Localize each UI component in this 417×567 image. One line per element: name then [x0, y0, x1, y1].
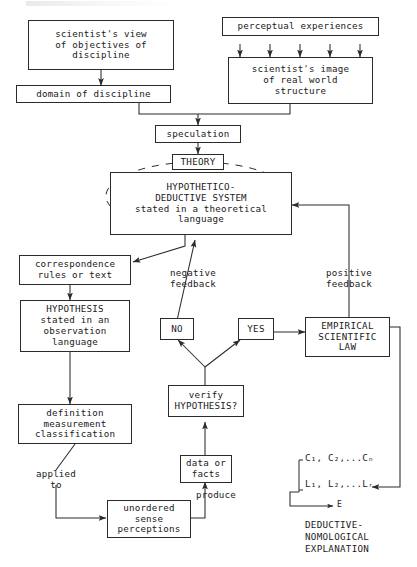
node-perceptual-experiences[interactable]: perceptual experiences	[222, 17, 379, 36]
edge-hd-to-correspondence	[133, 235, 185, 262]
dn-caption: DEDUCTIVE- NOMOLOGICAL EXPLANATION	[305, 519, 369, 555]
dn-laws: L₁, L₂,...Lᵣ	[305, 478, 374, 490]
node-correspondence-rules[interactable]: correspondence rules or text	[19, 255, 131, 285]
node-hypothesis[interactable]: HYPOTHESIS stated in an observation lang…	[20, 300, 130, 352]
diagram-canvas: scientist's view of objectives of discip…	[0, 0, 417, 567]
node-empirical-scientific-law[interactable]: EMPIRICAL SCIENTIFIC LAW	[305, 317, 390, 357]
dn-conditions: C₁, C₂,...Cₙ	[305, 452, 374, 464]
edge-definition-to-applied	[56, 444, 75, 470]
edge-positive-feedback	[292, 205, 349, 318]
node-definition-measurement-classification[interactable]: definition measurement classification	[18, 404, 132, 444]
node-hypothetico-deductive-system[interactable]: HYPOTHETICO- DEDUCTIVE SYSTEM stated in …	[110, 172, 292, 235]
node-verify-hypothesis[interactable]: verify HYPOTHESIS?	[168, 385, 244, 417]
node-data-or-facts[interactable]: data or facts	[180, 455, 232, 483]
node-yes[interactable]: YES	[238, 318, 274, 340]
label-negative-feedback: negative feedback	[155, 267, 231, 289]
label-positive-feedback: positive feedback	[311, 267, 387, 289]
dn-inference-line	[290, 492, 333, 506]
node-domain-of-discipline[interactable]: domain of discipline	[16, 85, 171, 103]
label-applied-to: applied to	[25, 468, 87, 490]
label-produce: produce	[185, 489, 247, 500]
node-no[interactable]: NO	[160, 318, 194, 340]
dn-left-bracket-top	[299, 460, 303, 492]
node-scientists-view[interactable]: scientist's view of objectives of discip…	[28, 20, 174, 70]
edge-verify-to-yes	[205, 340, 240, 367]
node-scientists-image[interactable]: scientist's image of real world structur…	[228, 57, 373, 104]
dn-explanandum: E	[337, 500, 342, 511]
node-theory[interactable]: THEORY	[172, 154, 224, 170]
node-speculation[interactable]: speculation	[155, 125, 241, 143]
edge-image-to-junction	[198, 104, 290, 114]
edge-verify-to-no	[178, 340, 205, 367]
node-unordered-sense-perceptions[interactable]: unordered sense perceptions	[107, 500, 191, 538]
edge-domain-to-junction	[139, 103, 198, 114]
